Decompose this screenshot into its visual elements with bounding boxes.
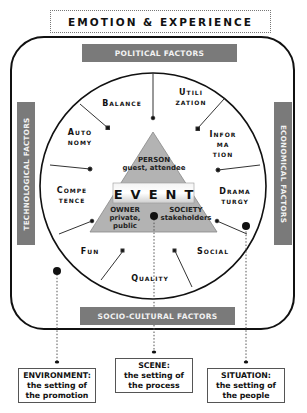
- factor-dramaturgy-line1: Drama: [212, 187, 258, 197]
- factor-information-line1: Infor: [199, 130, 247, 140]
- owner-title: OWNER: [97, 206, 153, 214]
- factor-utilization-line1: Utili: [161, 88, 221, 98]
- scene-line2: the process: [116, 381, 192, 391]
- society-title: SOCIETY: [157, 206, 215, 214]
- factor-dramaturgy-line2: turgy: [212, 197, 258, 207]
- factor-utilization: Utili zation: [161, 88, 221, 108]
- economical-factors-bar: ECONOMICAL FACTORS: [274, 102, 292, 245]
- triangle-society: SOCIETY stakeholders: [157, 206, 215, 222]
- event-label: EVENT: [113, 185, 194, 203]
- technological-factors-bar: TECHNOLOGICAL FACTORS: [17, 102, 35, 245]
- factor-quality: Quality: [120, 274, 180, 284]
- situation-line2: the people: [208, 391, 284, 401]
- environment-box: ENVIRONMENT: the setting of the promotio…: [18, 368, 96, 403]
- factor-balance: Balance: [92, 99, 152, 109]
- environment-line2: the promotion: [19, 391, 95, 401]
- factor-quality-text: Quality: [120, 274, 180, 284]
- socio-cultural-factors-bar: SOCIO-CULTURAL FACTORS: [80, 307, 235, 325]
- factor-information-line3: tion: [199, 150, 247, 160]
- factor-balance-text: Balance: [92, 99, 152, 109]
- scene-title: SCENE:: [116, 361, 192, 371]
- person-subtitle: guest, attendee: [118, 164, 190, 172]
- factor-competence-line1: Compe: [49, 186, 95, 196]
- situation-title: SITUATION:: [208, 371, 284, 381]
- factor-utilization-line2: zation: [161, 98, 221, 108]
- factor-dramaturgy: Drama turgy: [212, 187, 258, 207]
- factor-information-line2: ma: [199, 140, 247, 150]
- factor-competence: Compe tence: [49, 186, 95, 206]
- owner-subtitle: private, public: [97, 214, 153, 230]
- factor-competence-line2: tence: [49, 196, 95, 206]
- situation-box: SITUATION: the setting of the people: [207, 368, 285, 403]
- triangle-person: PERSON guest, attendee: [118, 156, 190, 172]
- triangle-owner: OWNER private, public: [97, 206, 153, 230]
- factor-autonomy-line1: Auto: [59, 128, 101, 138]
- environment-line1: the setting of: [19, 381, 95, 391]
- factor-autonomy-line2: nomy: [59, 138, 101, 148]
- factor-autonomy: Auto nomy: [59, 128, 101, 148]
- technological-factors-label: TECHNOLOGICAL FACTORS: [22, 117, 31, 230]
- political-factors-bar: POLITICAL FACTORS: [82, 44, 237, 62]
- factor-fun-text: Fun: [70, 247, 110, 257]
- scene-line1: the setting of: [116, 371, 192, 381]
- factor-social-text: Social: [190, 247, 236, 257]
- scene-box: SCENE: the setting of the process: [115, 358, 193, 393]
- factor-fun: Fun: [70, 247, 110, 257]
- factor-social: Social: [190, 247, 236, 257]
- environment-title: ENVIRONMENT:: [19, 371, 95, 381]
- situation-line1: the setting of: [208, 381, 284, 391]
- person-title: PERSON: [118, 156, 190, 164]
- society-subtitle: stakeholders: [157, 214, 215, 222]
- factor-information: Infor ma tion: [199, 130, 247, 160]
- economical-factors-label: ECONOMICAL FACTORS: [279, 124, 288, 222]
